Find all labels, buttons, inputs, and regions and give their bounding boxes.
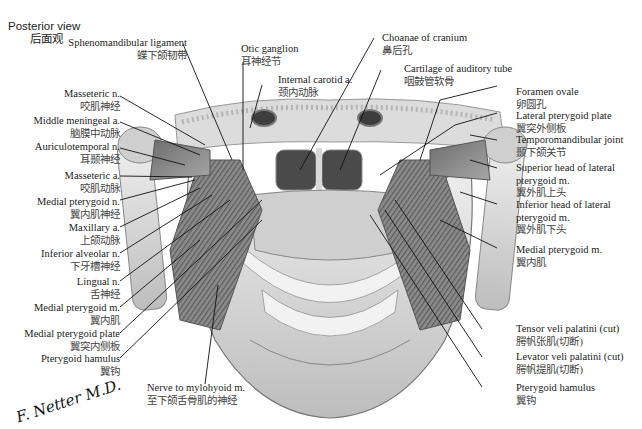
label-pterygoid-hamulus-left: Pterygoid hamulus翼钩 <box>41 353 120 378</box>
label-lateral-pterygoid-plate: Lateral pterygoid plate翼突外侧板 <box>516 110 612 135</box>
label-levator-veli-palatini: Levator veli palatini (cut)腭帆提肌(切断) <box>516 351 624 376</box>
label-inferior-alveolar-n: Inferior alveolar n.下牙槽神经 <box>41 248 120 273</box>
label-pterygoid-hamulus-right: Pterygoid hamulus翼钩 <box>516 382 595 407</box>
label-otic-ganglion: Otic ganglion耳神经节 <box>241 43 298 68</box>
label-temporomandibular-joint: Temporomandibular joint颞下颌关节 <box>516 134 623 159</box>
choanae <box>276 148 362 194</box>
label-tensor-veli-palatini: Tensor veli palatini (cut)腭帆张肌(切断) <box>516 323 619 348</box>
label-foramen-ovale: Foramen ovale卵圆孔 <box>516 86 579 111</box>
label-choanae-of-cranium: Choanae of cranium鼻后孔 <box>382 32 467 57</box>
label-inferior-head-lateral-pterygoid: Inferior head of lateralpterygoid m.翼外肌下… <box>516 199 611 237</box>
label-medial-pterygoid-n: Medial pterygoid n.翼内肌神经 <box>37 196 120 221</box>
label-maxillary-a: Maxillary a.上颌动脉 <box>69 222 120 247</box>
label-auriculotemporal-n: Auriculotemporal n.耳颞神经 <box>35 141 120 166</box>
skull-base <box>175 99 505 152</box>
label-medial-pterygoid-m-left: Medial pterygoid m.翼内肌 <box>34 302 120 327</box>
label-medial-pterygoid-plate: Medial pterygoid plate翼突内侧板 <box>24 328 120 353</box>
label-lingual-n: Lingual n.舌神经 <box>77 276 120 301</box>
label-medial-pterygoid-m-right: Medial pterygoid m.翼内肌 <box>516 244 602 269</box>
label-superior-head-lateral-pterygoid: Superior head of lateralpterygoid m.翼外肌上… <box>516 162 615 200</box>
label-cartilage-of-auditory-tube: Cartilage of auditory tube咽鼓管软骨 <box>404 63 512 88</box>
label-nerve-to-mylohyoid: Nerve to mylohyoid m.至下颌舌骨肌的神经 <box>147 382 245 407</box>
label-masseteric-a: Masseteric a.咬肌动脉 <box>65 170 120 195</box>
label-internal-carotid-a: Internal carotid a.颈内动脉 <box>278 74 352 99</box>
label-sphenomandibular-ligament: Sphenomandibular ligament蝶下颌韧带 <box>68 37 187 62</box>
label-middle-meningeal-a: Middle meningeal a.脑膜中动脉 <box>33 115 120 140</box>
label-masseteric-n: Masseteric n.咬肌神经 <box>64 88 120 113</box>
